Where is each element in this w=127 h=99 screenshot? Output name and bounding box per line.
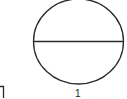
- shape-label: 1: [75, 88, 81, 98]
- diagram-canvas: 1: [0, 0, 127, 98]
- bracket-fragment: [0, 87, 4, 99]
- split-circle-shape: [34, 0, 124, 84]
